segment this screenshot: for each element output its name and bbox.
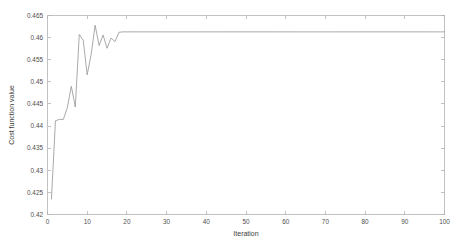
y-tick-label: 0.445 [27,100,43,107]
x-axis-title: Iteration [233,230,258,237]
axes-frame [48,16,445,215]
x-tick-label: 60 [282,218,290,225]
y-tick-label: 0.465 [27,12,43,19]
chart-plot-svg: 0102030405060708090100 0.420.4250.430.43… [0,0,464,247]
x-axis-tick-labels: 0102030405060708090100 [46,218,451,225]
axes-box [48,16,445,215]
y-tick-label: 0.43 [31,167,44,174]
data-line-cost-function [51,25,444,199]
y-axis-title: Cost function value [8,85,15,145]
x-tick-label: 20 [123,218,131,225]
x-tick-label: 40 [203,218,211,225]
x-tick-label: 10 [84,218,92,225]
y-tick-label: 0.455 [27,56,43,63]
y-axis-tick-labels: 0.420.4250.430.4350.440.4450.450.4550.46… [27,12,43,218]
y-tick-label: 0.435 [27,144,43,151]
chart-figure: 0102030405060708090100 0.420.4250.430.43… [0,0,464,247]
x-tick-label: 30 [163,218,171,225]
y-tick-label: 0.425 [27,189,43,196]
y-tick-label: 0.45 [31,78,44,85]
x-tick-label: 80 [362,218,370,225]
y-tick-label: 0.42 [31,211,44,218]
y-tick-label: 0.44 [31,122,44,129]
y-axis-ticks [48,16,445,215]
x-tick-label: 0 [46,218,50,225]
data-series-group [51,25,444,199]
x-tick-label: 50 [242,218,250,225]
x-tick-label: 90 [401,218,409,225]
y-tick-label: 0.46 [31,34,44,41]
x-tick-label: 70 [322,218,330,225]
x-tick-label: 100 [439,218,450,225]
x-axis-ticks [48,16,445,215]
